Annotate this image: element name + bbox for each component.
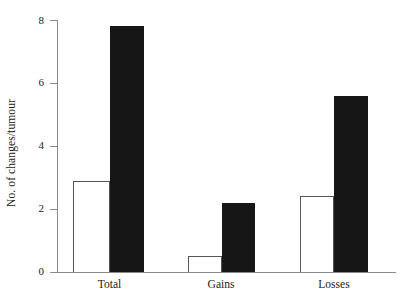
x-category-label-gains: Gains [171,278,271,291]
bar-total-open [73,181,110,272]
bar-chart-figure: No. of changes/tumour 8 6 4 2 0 Total Ga… [0,0,408,306]
x-category-label-losses: Losses [284,278,384,291]
bar-gains-filled [222,203,255,272]
y-tick-label-2: 2 [20,203,44,214]
y-tick-label-4: 4 [20,140,44,151]
y-tick-label-6: 6 [20,77,44,88]
x-category-label-total: Total [57,278,162,291]
y-axis-line [57,20,58,273]
y-tick-mark-2 [50,209,57,210]
y-tick-mark-6 [50,83,57,84]
bar-losses-filled [334,96,368,272]
y-tick-mark-0 [50,272,57,273]
y-tick-label-0: 0 [20,266,44,277]
bar-losses-open [300,196,334,272]
y-tick-label-8: 8 [20,15,44,26]
plot-area: 8 6 4 2 0 Total Gains Losses [0,0,408,306]
y-tick-mark-8 [50,20,57,21]
bar-total-filled [110,26,144,272]
y-tick-mark-4 [50,146,57,147]
bar-gains-open [188,256,222,272]
